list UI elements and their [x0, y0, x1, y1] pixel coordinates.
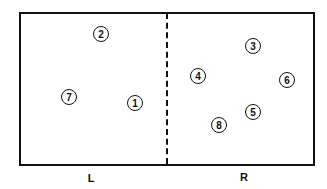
region-label-left: L	[88, 172, 95, 184]
node-8: 8	[211, 117, 227, 133]
node-5: 5	[245, 104, 261, 120]
node-2: 2	[93, 26, 109, 42]
node-7: 7	[61, 89, 77, 105]
region-label-right: R	[240, 171, 248, 183]
center-dashed-divider	[166, 13, 168, 164]
node-1: 1	[127, 95, 143, 111]
node-3: 3	[245, 38, 261, 54]
node-4: 4	[190, 68, 206, 84]
node-6: 6	[279, 72, 295, 88]
